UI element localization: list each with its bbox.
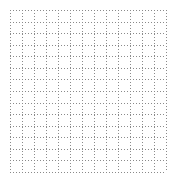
dotted-grid [10, 10, 167, 173]
